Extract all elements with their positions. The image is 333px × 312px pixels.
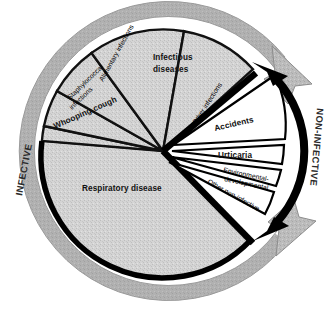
pie-chart-svg: Respiratory disease Whooping cough Staph… [0,0,333,312]
ring-label-non-infective: NON-INFECTIVE [308,108,326,187]
label-respiratory-disease: Respiratory disease [82,184,162,193]
label-infectious-diseases-line2: diseases [153,65,189,74]
figure-canvas: Respiratory disease Whooping cough Staph… [0,0,333,312]
label-infectious-diseases-line1: Infectious [153,53,193,62]
label-urticaria: Urticaria [218,151,252,160]
